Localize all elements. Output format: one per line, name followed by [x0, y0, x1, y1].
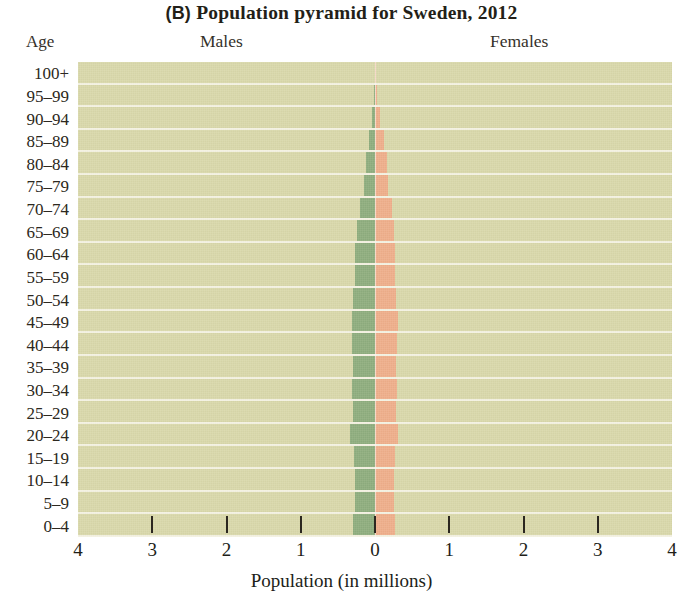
pyramid-row	[78, 379, 672, 402]
bar-male-10-14	[355, 469, 375, 490]
y-tick-label: 15–19	[27, 450, 70, 467]
y-tick-label: 75–79	[27, 178, 70, 195]
bar-female-20-24	[375, 424, 398, 445]
y-tick-label: 65–69	[27, 224, 70, 241]
bar-female-95-99	[375, 85, 377, 106]
bar-male-65-69	[357, 220, 375, 241]
x-tick-label: 0	[370, 540, 380, 559]
legend-label-males: Males	[200, 31, 243, 52]
x-axis-tick-labels: 432101234	[78, 540, 672, 566]
y-tick-label: 30–34	[27, 382, 70, 399]
bar-female-45-49	[375, 311, 398, 332]
pyramid-row	[78, 514, 672, 537]
pyramid-plot-area	[78, 62, 672, 537]
pyramid-row	[78, 62, 672, 85]
x-tick-label: 2	[519, 540, 529, 559]
x-tick-label: 3	[593, 540, 603, 559]
pyramid-row	[78, 401, 672, 424]
chart-title: (B) Population pyramid for Sweden, 2012	[0, 2, 683, 24]
bar-female-40-44	[375, 333, 397, 354]
bar-female-80-84	[375, 152, 387, 173]
y-tick-label: 55–59	[27, 269, 70, 286]
pyramid-row	[78, 175, 672, 198]
pyramid-row	[78, 424, 672, 447]
chart-title-text: Population pyramid for Sweden, 2012	[196, 2, 517, 23]
bar-male-30-34	[352, 379, 375, 400]
legend-label-females: Females	[490, 31, 548, 52]
bar-male-35-39	[353, 356, 375, 377]
bar-male-75-79	[364, 175, 375, 196]
pyramid-row	[78, 85, 672, 108]
y-tick-label: 50–54	[27, 292, 70, 309]
bar-female-30-34	[375, 379, 397, 400]
bar-female-35-39	[375, 356, 396, 377]
y-tick-label: 10–14	[27, 472, 70, 489]
y-tick-label: 80–84	[27, 156, 70, 173]
age-column-header: Age	[26, 32, 54, 52]
bar-female-85-89	[375, 130, 384, 151]
y-tick-label: 100+	[34, 65, 69, 82]
bar-male-60-64	[355, 243, 375, 264]
pyramid-row	[78, 492, 672, 515]
bar-male-55-59	[355, 265, 375, 286]
bar-female-70-74	[375, 198, 392, 219]
x-tick-label: 3	[148, 540, 158, 559]
pyramid-row	[78, 152, 672, 175]
bar-male-80-84	[366, 152, 375, 173]
bar-female-65-69	[375, 220, 394, 241]
pyramid-row	[78, 243, 672, 266]
y-tick-label: 90–94	[27, 111, 70, 128]
pyramid-row	[78, 446, 672, 469]
bar-male-20-24	[350, 424, 375, 445]
pyramid-row	[78, 198, 672, 221]
bar-female-5-9	[375, 492, 394, 513]
pyramid-row	[78, 288, 672, 311]
bar-female-10-14	[375, 469, 394, 490]
pyramid-row	[78, 107, 672, 130]
x-tick-label: 1	[296, 540, 306, 559]
bar-male-15-19	[354, 446, 375, 467]
x-tick-label: 4	[667, 540, 677, 559]
pyramid-row	[78, 311, 672, 334]
bar-female-15-19	[375, 446, 395, 467]
bar-female-60-64	[375, 243, 395, 264]
y-tick-label: 5–9	[44, 495, 70, 512]
bar-male-70-74	[360, 198, 375, 219]
pyramid-row	[78, 333, 672, 356]
y-tick-label: 95–99	[27, 88, 70, 105]
pyramid-row	[78, 265, 672, 288]
pyramid-row	[78, 356, 672, 379]
y-axis-labels: 100+95–9990–9485–8980–8475–7970–7465–696…	[0, 62, 74, 537]
y-tick-label: 35–39	[27, 359, 70, 376]
y-tick-label: 60–64	[27, 246, 70, 263]
y-tick-label: 40–44	[27, 337, 70, 354]
bar-female-50-54	[375, 288, 396, 309]
bar-female-90-94	[375, 107, 380, 128]
x-tick-label: 2	[222, 540, 232, 559]
bar-male-40-44	[352, 333, 375, 354]
x-tick-label: 1	[445, 540, 455, 559]
bar-female-25-29	[375, 401, 396, 422]
bar-male-45-49	[352, 311, 375, 332]
panel-letter: (B)	[165, 3, 191, 23]
y-tick-label: 20–24	[27, 427, 70, 444]
y-tick-label: 25–29	[27, 405, 70, 422]
y-tick-label: 0–4	[44, 518, 70, 535]
y-tick-label: 85–89	[27, 133, 70, 150]
pyramid-row	[78, 220, 672, 243]
x-tick-label: 4	[73, 540, 83, 559]
bar-male-50-54	[353, 288, 375, 309]
bar-male-0-4	[353, 514, 375, 535]
bar-female-55-59	[375, 265, 395, 286]
y-tick-label: 70–74	[27, 201, 70, 218]
bar-female-75-79	[375, 175, 388, 196]
pyramid-row	[78, 130, 672, 153]
bar-female-0-4	[375, 514, 395, 535]
bar-male-25-29	[353, 401, 375, 422]
bar-male-5-9	[355, 492, 375, 513]
y-tick-label: 45–49	[27, 314, 70, 331]
x-axis-title: Population (in millions)	[0, 570, 683, 592]
pyramid-row	[78, 469, 672, 492]
